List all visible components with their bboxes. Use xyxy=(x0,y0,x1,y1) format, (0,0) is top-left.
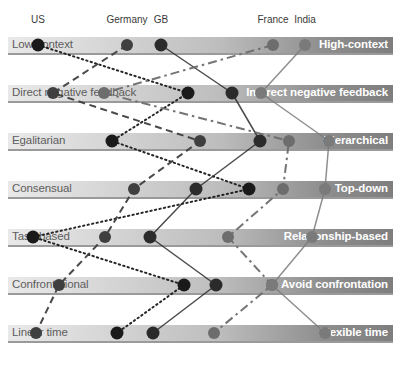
country-label-gb: GB xyxy=(154,14,168,25)
country-label-india: India xyxy=(294,14,316,25)
data-point-marker xyxy=(319,183,331,195)
data-point-marker xyxy=(128,183,140,195)
country-label-us: US xyxy=(31,14,45,25)
culture-map-figure: Low-contextHigh-contextDirect negative f… xyxy=(0,0,411,369)
country-label-france: France xyxy=(257,14,288,25)
data-point-marker xyxy=(283,135,295,147)
data-point-marker xyxy=(30,327,42,339)
data-point-marker xyxy=(111,327,124,340)
data-point-marker xyxy=(144,231,157,244)
country-label-germany: Germany xyxy=(106,14,147,25)
data-point-marker xyxy=(155,39,168,52)
data-point-marker xyxy=(178,279,191,292)
data-point-marker xyxy=(299,39,311,51)
data-point-marker xyxy=(266,279,278,291)
data-point-marker xyxy=(323,135,335,147)
data-point-marker xyxy=(210,279,223,292)
data-point-marker xyxy=(32,39,45,52)
data-point-marker xyxy=(99,231,111,243)
data-point-marker xyxy=(121,39,133,51)
data-point-marker xyxy=(182,87,195,100)
data-point-marker xyxy=(98,87,110,99)
data-point-marker xyxy=(222,231,234,243)
data-point-marker xyxy=(147,327,160,340)
data-point-marker xyxy=(190,183,203,196)
data-point-marker xyxy=(47,87,59,99)
data-point-marker xyxy=(53,279,65,291)
data-point-marker xyxy=(194,135,206,147)
country-lines-layer xyxy=(0,0,411,369)
data-point-marker xyxy=(306,231,318,243)
data-point-marker xyxy=(27,231,40,244)
data-point-marker xyxy=(243,183,256,196)
data-point-marker xyxy=(106,135,119,148)
data-point-marker xyxy=(277,183,289,195)
data-point-marker xyxy=(319,327,331,339)
data-point-marker xyxy=(208,327,220,339)
data-point-marker xyxy=(267,39,279,51)
data-point-marker xyxy=(255,87,267,99)
data-point-marker xyxy=(226,87,239,100)
data-point-marker xyxy=(254,135,267,148)
